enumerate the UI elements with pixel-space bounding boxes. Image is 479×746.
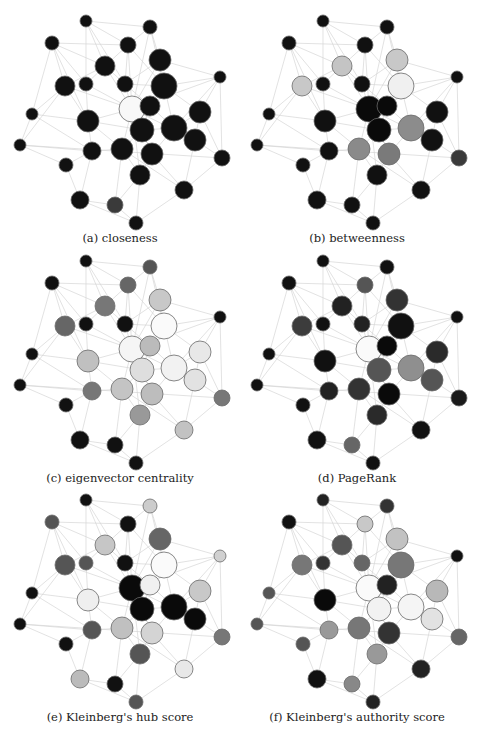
graph-node xyxy=(117,555,133,571)
graph-edge xyxy=(32,43,52,114)
graph-node xyxy=(292,555,312,575)
network-graph-betweenness xyxy=(237,0,477,232)
graph-node xyxy=(451,311,463,323)
graph-node xyxy=(412,181,430,199)
graph-node xyxy=(292,76,312,96)
graph-node xyxy=(175,181,193,199)
graph-edge xyxy=(220,556,222,637)
graph-edge xyxy=(457,556,459,637)
graph-node xyxy=(161,594,187,620)
graph-node xyxy=(251,618,263,630)
graph-node xyxy=(357,277,373,293)
graph-node xyxy=(367,405,387,425)
graph-node xyxy=(317,15,329,27)
graph-node xyxy=(332,296,352,316)
graph-node xyxy=(367,358,391,382)
network-graph-closeness xyxy=(0,0,240,232)
graph-node xyxy=(451,550,463,562)
graph-node xyxy=(120,37,136,53)
panel-pagerank: (d) PageRank xyxy=(237,240,477,480)
graph-node xyxy=(55,76,75,96)
graph-node xyxy=(388,552,414,578)
graph-node xyxy=(451,150,467,166)
graph-node xyxy=(344,197,360,213)
graph-node xyxy=(71,670,89,688)
network-graph-pagerank xyxy=(237,240,477,472)
graph-node xyxy=(377,575,397,595)
graph-node xyxy=(386,528,408,550)
graph-node xyxy=(354,316,370,332)
graph-node xyxy=(129,216,143,230)
graph-node xyxy=(316,77,330,91)
graph-node xyxy=(398,355,424,381)
graph-node xyxy=(320,621,338,639)
graph-node xyxy=(59,398,73,412)
graph-node xyxy=(80,255,92,267)
panel-hub-score: (e) Kleinberg's hub score xyxy=(0,479,240,719)
graph-node xyxy=(45,276,59,290)
graph-node xyxy=(308,431,326,449)
graph-node xyxy=(308,670,326,688)
graph-node xyxy=(149,528,171,550)
graph-node xyxy=(354,555,370,571)
graph-node xyxy=(426,580,448,602)
graph-node xyxy=(189,101,211,123)
graph-node xyxy=(251,139,263,151)
graph-node xyxy=(184,129,206,151)
graph-node xyxy=(79,556,93,570)
graph-node xyxy=(386,49,408,71)
network-graph-eigenvector xyxy=(0,240,240,472)
graph-node xyxy=(282,515,296,529)
graph-edge xyxy=(457,317,459,398)
graph-node xyxy=(130,358,154,382)
graph-node xyxy=(308,191,326,209)
graph-node xyxy=(421,369,443,391)
graph-node xyxy=(77,589,99,611)
graph-node xyxy=(366,695,380,709)
graph-node xyxy=(367,644,387,664)
graph-edge xyxy=(289,522,365,524)
graph-node xyxy=(398,594,424,620)
graph-node xyxy=(130,165,150,185)
graph-node xyxy=(214,71,226,83)
graph-node xyxy=(320,382,338,400)
graph-node xyxy=(377,336,397,356)
graph-edge xyxy=(32,283,52,354)
graph-node xyxy=(412,660,430,678)
graph-edge xyxy=(289,43,365,45)
graph-node xyxy=(398,115,424,141)
graph-node xyxy=(14,618,26,630)
graph-node xyxy=(175,421,193,439)
graph-node xyxy=(357,516,373,532)
graph-node xyxy=(120,277,136,293)
graph-node xyxy=(380,20,394,34)
graph-edge xyxy=(220,77,222,158)
graph-edge xyxy=(457,77,459,158)
graph-node xyxy=(83,382,101,400)
graph-node xyxy=(214,390,230,406)
graph-node xyxy=(380,499,394,513)
graph-node xyxy=(55,316,75,336)
graph-node xyxy=(77,350,99,372)
graph-node xyxy=(263,348,275,360)
graph-edge xyxy=(32,522,52,593)
graph-node xyxy=(143,20,157,34)
caption-authority-score: (f) Kleinberg's authority score xyxy=(237,710,477,724)
graph-node xyxy=(344,676,360,692)
graph-node xyxy=(296,398,310,412)
graph-node xyxy=(140,575,160,595)
graph-node xyxy=(292,316,312,336)
graph-node xyxy=(151,73,177,99)
graph-node xyxy=(320,142,338,160)
graph-node xyxy=(426,341,448,363)
graph-node xyxy=(117,76,133,92)
graph-edge xyxy=(269,522,289,593)
graph-node xyxy=(378,622,400,644)
graph-node xyxy=(143,499,157,513)
graph-node xyxy=(263,108,275,120)
graph-node xyxy=(107,197,123,213)
graph-node xyxy=(141,622,163,644)
graph-node xyxy=(120,516,136,532)
panel-authority-score: (f) Kleinberg's authority score xyxy=(237,479,477,719)
caption-hub-score: (e) Kleinberg's hub score xyxy=(0,710,240,724)
